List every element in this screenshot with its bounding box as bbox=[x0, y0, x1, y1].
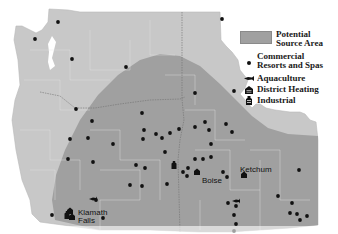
resort-dot-icon bbox=[230, 130, 234, 134]
industrial-icon bbox=[244, 96, 254, 105]
resort-dot-icon bbox=[56, 20, 60, 24]
resort-dot-icon bbox=[86, 136, 90, 140]
resort-dot-icon bbox=[290, 201, 294, 205]
resort-dot-icon bbox=[288, 211, 292, 215]
resort-dot-icon bbox=[142, 128, 146, 132]
resort-dot-icon bbox=[141, 137, 145, 141]
resort-dot-icon bbox=[234, 222, 238, 226]
resort-dot-icon bbox=[160, 136, 164, 140]
resort-dot-icon bbox=[68, 137, 72, 141]
resort-dot-icon bbox=[186, 166, 190, 170]
resort-dot-icon bbox=[124, 65, 128, 69]
resort-dot-icon bbox=[111, 142, 115, 146]
legend-resorts: Commercial Resorts and Spas bbox=[244, 52, 323, 69]
resort-dot-icon bbox=[185, 174, 189, 178]
resort-dot-icon bbox=[165, 182, 169, 186]
resort-dot-icon bbox=[140, 111, 144, 115]
resort-dot-icon bbox=[181, 170, 185, 174]
resort-dot-icon bbox=[209, 142, 213, 146]
resort-dot-icon bbox=[50, 213, 54, 217]
resort-dot-icon bbox=[207, 128, 211, 132]
resort-dot-icon bbox=[66, 157, 70, 161]
city-label-klamath-falls: Klamath Falls bbox=[78, 209, 107, 225]
resort-dot-icon bbox=[220, 17, 224, 21]
resort-dot-icon bbox=[203, 120, 207, 124]
city-label-ketchum: Ketchum bbox=[240, 166, 272, 174]
resort-dot-icon bbox=[193, 125, 197, 129]
resort-dot-icon bbox=[33, 37, 37, 41]
resort-dot-icon bbox=[143, 166, 147, 170]
resort-dot-icon bbox=[221, 170, 225, 174]
legend-district-heating-label: District Heating bbox=[257, 85, 319, 94]
legend-industrial: Industrial bbox=[244, 96, 296, 105]
resort-dot-icon bbox=[91, 160, 95, 164]
aquaculture-fish-icon bbox=[244, 74, 254, 83]
resort-dot-icon bbox=[305, 214, 309, 218]
legend-resorts-line2: Resorts and Spas bbox=[257, 61, 323, 70]
resort-dot-icon bbox=[154, 132, 158, 136]
resort-dot-icon bbox=[209, 155, 213, 159]
legend-district-heating: District Heating bbox=[244, 85, 319, 94]
resort-dot-icon bbox=[232, 89, 236, 93]
resort-dot-icon bbox=[193, 157, 197, 161]
resort-dot-icon bbox=[295, 212, 299, 216]
source-area-swatch bbox=[240, 31, 272, 44]
resort-dot-icon bbox=[134, 163, 138, 167]
resort-dot-icon bbox=[232, 213, 236, 217]
legend-aquaculture: Aquaculture bbox=[244, 74, 305, 83]
resort-dot-icon bbox=[163, 150, 167, 154]
resort-dot-icon bbox=[128, 183, 132, 187]
resort-dot-icon bbox=[193, 91, 197, 95]
resort-dot-icon bbox=[201, 157, 205, 161]
resort-dot-icon bbox=[177, 127, 181, 131]
resort-dot-icon bbox=[90, 119, 94, 123]
resort-dot-icon bbox=[244, 58, 254, 67]
klamath-label-line2: Falls bbox=[78, 217, 107, 225]
city-label-boise: Boise bbox=[202, 177, 222, 185]
resort-dot-icon bbox=[225, 175, 229, 179]
resort-dot-icon bbox=[297, 168, 301, 172]
resort-dot-icon bbox=[276, 194, 280, 198]
resort-dot-icon bbox=[224, 122, 228, 126]
district-heating-icon bbox=[244, 85, 254, 94]
resort-dot-icon bbox=[70, 57, 74, 61]
legend-industrial-label: Industrial bbox=[257, 96, 296, 105]
legend-aquaculture-label: Aquaculture bbox=[257, 74, 305, 83]
resort-dot-icon bbox=[168, 131, 172, 135]
resort-dot-icon bbox=[234, 204, 238, 208]
legend-source-area-line2: Source Area bbox=[276, 39, 323, 48]
resort-dot-icon bbox=[298, 218, 302, 222]
resort-dot-icon bbox=[74, 107, 78, 111]
resort-dot-icon bbox=[226, 201, 230, 205]
resort-dot-icon bbox=[140, 184, 144, 188]
legend-source-area: Potential Source Area bbox=[240, 30, 323, 47]
